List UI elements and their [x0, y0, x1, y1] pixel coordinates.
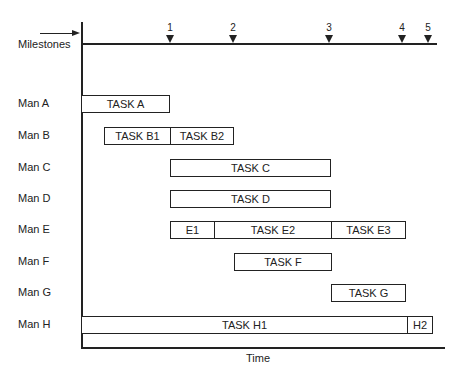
milestone-number: 1 [164, 22, 176, 33]
milestone-triangle-icon [166, 35, 174, 43]
row-label: Man C [18, 161, 50, 173]
row-label: Man G [18, 286, 51, 298]
task-bar: TASK E2 [214, 221, 332, 239]
task-bar: TASK D [170, 190, 331, 208]
task-bar: H2 [407, 316, 433, 334]
milestone-number: 5 [422, 22, 434, 33]
task-label: TASK A [107, 98, 145, 110]
arrow-right-icon [72, 30, 80, 36]
row-label: Man D [18, 192, 50, 204]
milestone-triangle-icon [398, 35, 406, 43]
milestone-number: 2 [227, 22, 239, 33]
milestone-number: 4 [396, 22, 408, 33]
milestone-triangle-icon [424, 35, 432, 43]
task-bar: TASK F [234, 253, 332, 271]
task-label: H2 [413, 319, 427, 331]
task-label: TASK G [349, 287, 389, 299]
task-label: TASK C [231, 162, 270, 174]
milestone-triangle-icon [325, 35, 333, 43]
time-axis [81, 347, 445, 349]
row-label: Man H [18, 318, 50, 330]
task-label: TASK B2 [180, 130, 224, 142]
task-bar: TASK A [81, 95, 170, 113]
milestone-triangle-icon [229, 35, 237, 43]
task-bar: E1 [170, 221, 215, 239]
task-bar: TASK H1 [81, 316, 408, 334]
milestone-line [82, 43, 437, 45]
task-label: TASK D [231, 193, 270, 205]
task-bar: TASK C [170, 159, 331, 177]
row-label: Man B [18, 129, 50, 141]
task-label: TASK B1 [115, 130, 159, 142]
row-label: Man E [18, 223, 50, 235]
time-axis-label: Time [246, 352, 270, 364]
task-bar: TASK E3 [331, 221, 406, 239]
milestones-label: Milestones [18, 38, 71, 50]
milestone-number: 3 [323, 22, 335, 33]
task-bar: TASK B2 [170, 127, 234, 145]
row-label: Man A [18, 97, 49, 109]
task-label: E1 [186, 224, 199, 236]
task-label: TASK F [264, 256, 302, 268]
milestones-arrow-line [40, 33, 72, 34]
task-bar: TASK G [331, 284, 406, 302]
task-label: TASK H1 [222, 319, 267, 331]
task-label: TASK E2 [251, 224, 295, 236]
vertical-axis [81, 22, 83, 348]
row-label: Man F [18, 255, 49, 267]
task-bar: TASK B1 [104, 127, 171, 145]
task-label: TASK E3 [346, 224, 390, 236]
